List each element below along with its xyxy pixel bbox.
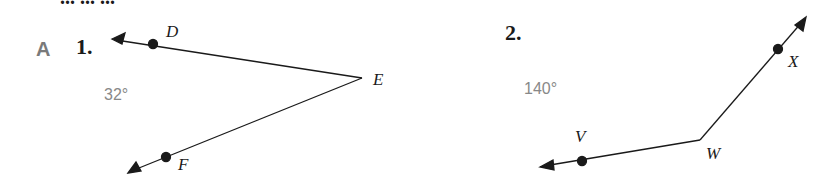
- arrowhead-d-icon: [112, 33, 125, 44]
- point-x: [774, 45, 783, 54]
- ray-wv: [544, 140, 700, 166]
- point-v: [578, 157, 587, 166]
- angle-def: [112, 33, 362, 173]
- point-f: [162, 153, 171, 162]
- angle-vwx: [540, 17, 806, 170]
- ray-wx: [700, 22, 802, 140]
- angle-diagrams: [0, 0, 813, 186]
- arrowhead-f-icon: [128, 162, 141, 173]
- arrowhead-v-icon: [540, 160, 554, 170]
- point-d: [149, 40, 158, 49]
